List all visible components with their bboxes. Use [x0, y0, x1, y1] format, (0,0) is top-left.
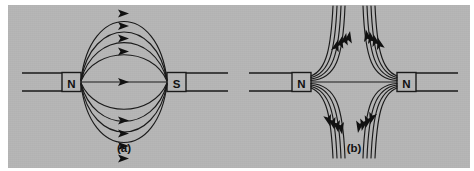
panel-b-magnet-right: [416, 73, 458, 91]
panel-b-pole-label-left: N: [297, 78, 305, 90]
panel-b-caption: (b): [347, 142, 362, 154]
field-line: [311, 6, 337, 78]
panel-a: N S: [22, 10, 228, 163]
panel-a-magnet-left: [22, 73, 62, 91]
figure-root: N S: [0, 0, 474, 171]
field-line: [371, 87, 397, 159]
panel-a-pole-label-south: S: [173, 78, 181, 90]
panel-b: N N: [249, 6, 458, 158]
magnetic-field-diagram: N S: [0, 0, 474, 171]
field-line: [81, 55, 167, 81]
panel-a-caption: (a): [117, 142, 131, 154]
field-line: [375, 88, 397, 158]
field-line: [311, 6, 333, 76]
panel-a-magnet-right: [186, 73, 228, 91]
panel-b-pole-label-right: N: [402, 78, 410, 90]
panel-a-pole-label-north: N: [67, 78, 75, 90]
field-line: [81, 83, 167, 109]
panel-b-magnet-left: [249, 73, 292, 91]
